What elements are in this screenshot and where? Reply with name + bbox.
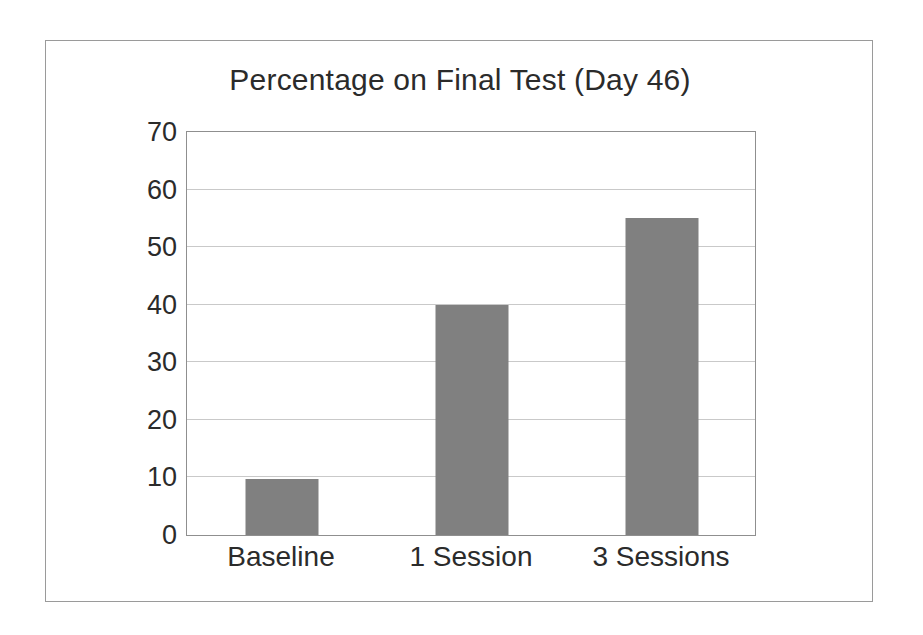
- bar: [436, 305, 509, 535]
- y-axis-tick-label: 50: [107, 234, 177, 261]
- chart-frame: Percentage on Final Test (Day 46) 010203…: [45, 40, 873, 602]
- y-axis-tick-label: 40: [107, 291, 177, 318]
- x-axis-labels: Baseline1 Session3 Sessions: [186, 541, 756, 589]
- y-axis-tick-label: 70: [107, 119, 177, 146]
- y-axis-tick-label: 60: [107, 176, 177, 203]
- bar-slot: [377, 132, 567, 535]
- x-axis-category-label: 3 Sessions: [566, 541, 756, 573]
- plot-area: 010203040506070: [186, 131, 756, 536]
- x-axis-category-label: 1 Session: [376, 541, 566, 573]
- y-axis-tick-label: 30: [107, 349, 177, 376]
- chart-figure: Percentage on Final Test (Day 46) 010203…: [0, 0, 923, 635]
- bar: [626, 218, 699, 535]
- y-axis-tick-label: 0: [107, 522, 177, 549]
- y-axis-tick-label: 10: [107, 464, 177, 491]
- bar-series: [187, 132, 755, 535]
- x-axis-category-label: Baseline: [186, 541, 376, 573]
- bar-slot: [567, 132, 757, 535]
- y-axis-tick-label: 20: [107, 406, 177, 433]
- chart-title: Percentage on Final Test (Day 46): [46, 63, 874, 97]
- bar: [246, 479, 319, 535]
- bar-slot: [187, 132, 377, 535]
